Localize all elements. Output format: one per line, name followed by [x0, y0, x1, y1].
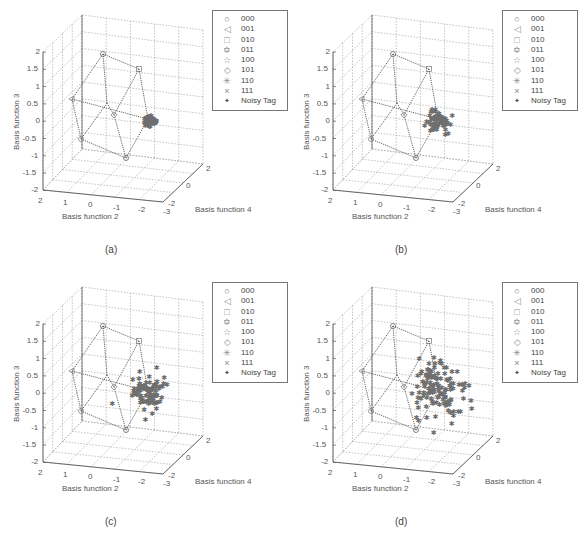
z-tick-label: -2 [321, 457, 328, 466]
legend-label: 111 [531, 358, 543, 368]
panel-caption: (b) [395, 244, 407, 255]
x-tick-label: -1 [113, 203, 120, 212]
svg-text:✱: ✱ [449, 368, 455, 376]
z-tick-label: -1 [321, 423, 328, 432]
svg-text:✱: ✱ [441, 364, 447, 372]
legend-item: ✳110 [503, 76, 577, 86]
x-tick-label: -3 [453, 207, 460, 216]
svg-text:✱: ✱ [468, 397, 474, 405]
z-tick-label: -1 [31, 423, 38, 432]
legend: ○000◁001□010✡011☆100◇101✳110×111✦Noisy T… [502, 282, 578, 383]
legend-label: 100 [241, 55, 254, 65]
x-axis-label: Basis function 2 [62, 484, 118, 493]
legend-label: 010 [531, 307, 544, 317]
legend-marker-icon: ☆ [503, 55, 531, 65]
legend-label: Noisy Tag [241, 96, 276, 106]
legend-label: 100 [531, 327, 544, 337]
y-tick-label: 0 [186, 453, 190, 462]
legend-label: 100 [531, 55, 544, 65]
legend-label: 111 [241, 358, 253, 368]
z-tick-label: 2 [36, 47, 40, 56]
svg-text:✱: ✱ [469, 405, 475, 413]
legend-item: ×111 [213, 86, 287, 96]
svg-text:✱: ✱ [431, 354, 437, 362]
legend-label: 000 [531, 286, 544, 296]
svg-text:✱: ✱ [449, 112, 455, 120]
legend-label: 000 [241, 286, 254, 296]
x-tick-label: 1 [353, 470, 357, 479]
z-tick-label: -2 [321, 185, 328, 194]
legend-label: 001 [531, 296, 544, 306]
legend-marker-icon: ◇ [503, 337, 531, 347]
z-tick-label: 2 [326, 319, 330, 328]
svg-text:✱: ✱ [424, 118, 430, 126]
svg-text:✱: ✱ [414, 399, 420, 407]
legend-marker-icon: ✦ [503, 368, 531, 378]
legend-item: ◇101 [213, 65, 287, 75]
legend-label: Noisy Tag [241, 368, 276, 378]
svg-text:✱: ✱ [458, 408, 464, 416]
legend-marker-icon: × [213, 358, 241, 368]
x-tick-label: -2 [428, 477, 435, 486]
svg-text:✱: ✱ [461, 395, 467, 403]
legend-marker-icon: ✡ [503, 317, 531, 327]
chart-panel-c: ✱✱✱✱✱✱✱✱✱✱✱✱✱✱✱✱✱✱✱✱✱✱✱✱✱✱✱✱✱✱✱✱✱✱✱✱✱✱✱✱… [0, 272, 290, 544]
legend-label: 101 [241, 337, 254, 347]
x-axis-label: Basis function 2 [352, 212, 408, 221]
z-tick-label: 0 [326, 388, 330, 397]
svg-text:✱: ✱ [153, 392, 159, 400]
x-tick-label: -3 [163, 207, 170, 216]
legend-label: 001 [531, 24, 544, 34]
legend-item: ✡011 [213, 317, 287, 327]
x-tick-label: -2 [428, 205, 435, 214]
z-tick-label: 1 [326, 82, 330, 91]
y-tick-label: 2 [496, 164, 500, 173]
svg-text:✱: ✱ [409, 390, 415, 398]
x-tick-label: 2 [38, 468, 42, 477]
x-axis-label: Basis function 2 [352, 484, 408, 493]
legend: ○000◁001□010✡011☆100◇101✳110×111✦Noisy T… [212, 10, 288, 111]
panel-caption: (a) [105, 244, 117, 255]
svg-text:✱: ✱ [424, 414, 430, 422]
x-tick-label: 0 [378, 472, 382, 481]
legend-item: ☆100 [503, 55, 577, 65]
legend-item: ◁001 [503, 24, 577, 34]
legend-label: 010 [241, 307, 254, 317]
legend-item: ◁001 [213, 296, 287, 306]
svg-text:✱: ✱ [430, 400, 436, 408]
legend-marker-icon: ☆ [213, 55, 241, 65]
legend-label: 010 [241, 35, 254, 45]
z-tick-label: 2 [326, 47, 330, 56]
svg-text:✱: ✱ [136, 375, 142, 383]
legend-item: ○000 [213, 14, 287, 24]
legend-item: ○000 [213, 286, 287, 296]
legend-item: ✡011 [503, 45, 577, 55]
x-tick-label: -3 [163, 479, 170, 488]
x-tick-label: 2 [328, 468, 332, 477]
legend-marker-icon: ✦ [213, 368, 241, 378]
legend-marker-icon: ○ [213, 14, 241, 24]
legend-item: ◁001 [213, 24, 287, 34]
y-tick-label: 2 [206, 164, 210, 173]
z-tick-label: -0.5 [312, 134, 326, 143]
legend-label: 111 [531, 86, 543, 96]
legend-item: □010 [503, 307, 577, 317]
x-tick-label: -1 [403, 475, 410, 484]
svg-text:✱: ✱ [143, 416, 149, 424]
legend-label: 101 [241, 65, 254, 75]
legend-item: ×111 [503, 86, 577, 96]
legend-item: ○000 [503, 286, 577, 296]
legend-label: 001 [241, 24, 254, 34]
z-tick-label: 1 [326, 354, 330, 363]
legend-label: Noisy Tag [531, 96, 566, 106]
x-tick-label: -1 [403, 203, 410, 212]
x-tick-label: -2 [138, 205, 145, 214]
svg-text:✱: ✱ [456, 381, 462, 389]
legend-item: ◇101 [213, 337, 287, 347]
z-axis-label: Basis function 3 [302, 94, 311, 150]
svg-text:✱: ✱ [423, 371, 429, 379]
legend-label: 011 [531, 317, 544, 327]
x-axis-label: Basis function 2 [62, 212, 118, 221]
legend: ○000◁001□010✡011☆100◇101✳110×111✦Noisy T… [502, 10, 578, 111]
legend-marker-icon: ✳ [503, 348, 531, 358]
